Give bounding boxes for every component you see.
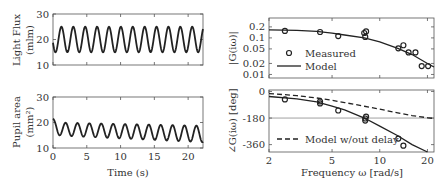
phase-ytick-label: -360 <box>243 139 265 150</box>
phase-xtick-label: 20 <box>421 155 434 166</box>
light-ytick-label: 30 <box>36 9 49 20</box>
pupil-axes-frame <box>53 97 203 148</box>
phase-ylabel: ∠G(iω) [deg] <box>227 88 238 153</box>
magnitude-ytick-label: 0.1 <box>249 32 265 43</box>
magnitude-ylabel: |G(iω)| <box>227 31 239 65</box>
magnitude-ytick-label: 0.02 <box>243 58 265 69</box>
magnitude-measured-point <box>413 50 418 55</box>
pupil-xtick-label: 0 <box>50 151 56 162</box>
magnitude-ytick-label: 0.05 <box>243 43 265 54</box>
light-ytick-label: 10 <box>36 60 49 71</box>
legend-model-label: Model <box>305 61 337 72</box>
light-flux-line <box>53 27 203 53</box>
time-xlabel: Time (s) <box>107 167 148 178</box>
legend-no-delay-label: Model w/out delay <box>305 134 399 145</box>
legend-measured-label: Measured <box>305 48 356 59</box>
pupil-ytick-label: 30 <box>36 92 49 103</box>
magnitude-measured-point <box>401 43 406 48</box>
pupil-ytick-label: 20 <box>36 117 49 128</box>
pupil-xtick-label: 15 <box>148 151 161 162</box>
magnitude-ytick-label: 0.2 <box>249 21 265 32</box>
light-ytick-label: 20 <box>36 34 49 45</box>
figure: Light Flux (mlm) 102030 Pupil area (mm²)… <box>0 0 445 186</box>
pupil-area-panel: Pupil area (mm²) Time (s) 102030 0510152… <box>11 92 203 179</box>
magnitude-ytick-label: 0.01 <box>243 69 265 80</box>
light-ylabel-unit: (mlm) <box>24 25 35 55</box>
magnitude-measured-point <box>419 64 424 69</box>
phase-xtick-label: 2 <box>266 155 272 166</box>
pupil-area-line <box>53 119 203 142</box>
phase-measured-point <box>336 108 341 113</box>
phase-xtick-label: 10 <box>373 155 386 166</box>
frequency-xlabel: Frequency ω [rad/s] <box>301 167 403 178</box>
phase-xtick-label: 5 <box>329 155 335 166</box>
phase-ytick-label: 0 <box>259 86 265 97</box>
phase-panel: ∠G(iω) [deg] Frequency ω [rad/s] 0-180-3… <box>227 86 434 178</box>
pupil-ytick-label: 10 <box>36 143 49 154</box>
light-flux-panel: Light Flux (mlm) 102030 <box>11 9 203 71</box>
phase-measured-point <box>401 143 406 148</box>
pupil-xtick-label: 5 <box>84 151 90 162</box>
phase-ytick-label: -180 <box>243 113 265 124</box>
pupil-ylabel-unit: (mm²) <box>24 107 35 138</box>
pupil-xtick-label: 20 <box>182 151 195 162</box>
magnitude-panel: |G(iω)| 0.20.10.050.020.01 Measured Mode… <box>227 18 434 80</box>
legend-measured-marker <box>287 51 292 56</box>
pupil-xtick-label: 10 <box>114 151 127 162</box>
light-ylabel: Light Flux <box>11 14 22 66</box>
pupil-ylabel: Pupil area <box>11 96 22 148</box>
magnitude-measured-point <box>282 28 287 33</box>
phase-model-no-delay-line <box>269 94 434 119</box>
